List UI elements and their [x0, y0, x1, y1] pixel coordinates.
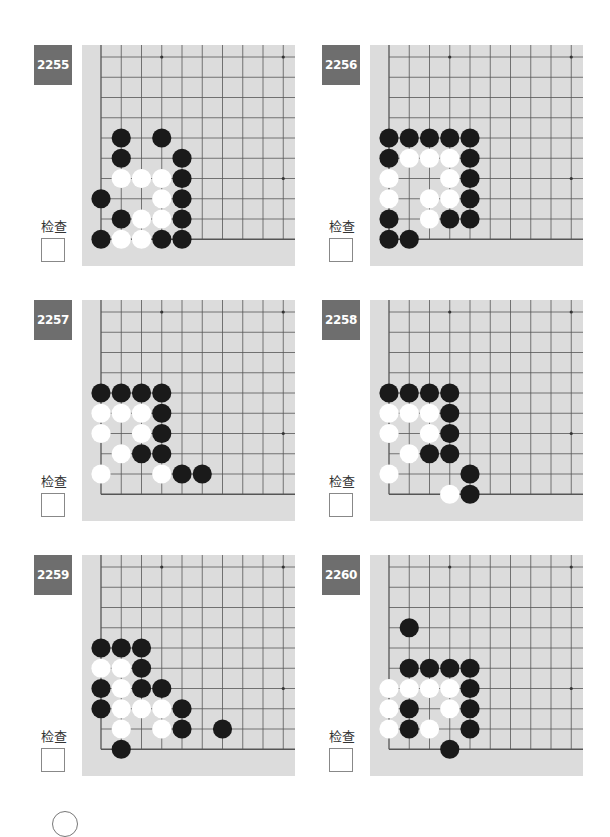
black-stone	[460, 659, 479, 678]
board-grid	[82, 555, 295, 776]
white-stone	[379, 404, 398, 423]
black-stone	[440, 128, 459, 147]
black-stone	[172, 149, 191, 168]
black-stone	[172, 189, 191, 208]
black-stone	[132, 444, 151, 463]
black-stone	[460, 464, 479, 483]
black-stone	[460, 699, 479, 718]
white-stone	[152, 699, 171, 718]
star-point	[570, 565, 573, 568]
white-stone	[379, 699, 398, 718]
white-stone	[91, 464, 110, 483]
board-grid	[370, 300, 583, 521]
black-stone	[152, 404, 171, 423]
check-label: 检查	[36, 216, 72, 235]
star-point	[448, 310, 451, 313]
black-stone	[132, 679, 151, 698]
black-stone	[400, 618, 419, 637]
problem-2260: 2260 检查	[322, 555, 610, 785]
star-point	[282, 177, 285, 180]
black-stone	[91, 638, 110, 657]
star-point	[282, 310, 285, 313]
white-stone	[440, 485, 459, 504]
problem-number-badge: 2258	[322, 300, 360, 340]
black-stone	[460, 679, 479, 698]
go-board	[82, 45, 295, 266]
white-stone	[112, 444, 131, 463]
black-stone	[91, 699, 110, 718]
go-board	[370, 555, 583, 776]
check-label: 检查	[36, 726, 72, 745]
black-stone	[400, 699, 419, 718]
white-stone	[420, 424, 439, 443]
white-stone	[91, 659, 110, 678]
problem-2258: 2258 检查	[322, 300, 610, 530]
check-box[interactable]	[329, 493, 353, 517]
black-stone	[440, 404, 459, 423]
black-stone	[420, 659, 439, 678]
star-point	[448, 55, 451, 58]
black-stone	[460, 169, 479, 188]
black-stone	[152, 679, 171, 698]
white-stone	[112, 659, 131, 678]
check-box[interactable]	[329, 238, 353, 262]
black-stone	[400, 719, 419, 738]
white-stone	[420, 679, 439, 698]
star-point	[282, 432, 285, 435]
white-stone	[420, 209, 439, 228]
black-stone	[132, 383, 151, 402]
check-box[interactable]	[41, 493, 65, 517]
black-stone	[460, 149, 479, 168]
white-stone	[400, 679, 419, 698]
black-stone	[440, 444, 459, 463]
star-point	[160, 310, 163, 313]
white-stone	[400, 404, 419, 423]
star-point	[160, 565, 163, 568]
black-stone	[91, 189, 110, 208]
black-stone	[213, 719, 232, 738]
black-stone	[400, 659, 419, 678]
black-stone	[172, 209, 191, 228]
black-stone	[172, 719, 191, 738]
black-stone	[460, 209, 479, 228]
check-box[interactable]	[329, 748, 353, 772]
check-box[interactable]	[41, 238, 65, 262]
go-board	[370, 45, 583, 266]
white-stone	[420, 149, 439, 168]
black-stone	[460, 719, 479, 738]
white-stone	[91, 424, 110, 443]
star-point	[570, 432, 573, 435]
star-point	[282, 565, 285, 568]
white-stone	[379, 169, 398, 188]
check-label: 检查	[324, 726, 360, 745]
problem-2255: 2255 检查	[34, 45, 324, 275]
black-stone	[152, 444, 171, 463]
problem-2259: 2259 检查	[34, 555, 324, 785]
go-board	[82, 555, 295, 776]
star-point	[448, 565, 451, 568]
black-stone	[379, 230, 398, 249]
white-stone	[440, 169, 459, 188]
white-stone	[420, 189, 439, 208]
white-stone	[420, 719, 439, 738]
star-point	[570, 310, 573, 313]
black-stone	[379, 149, 398, 168]
white-stone	[379, 189, 398, 208]
check-box[interactable]	[41, 748, 65, 772]
white-stone	[152, 464, 171, 483]
board-grid	[82, 45, 295, 266]
black-stone	[112, 383, 131, 402]
problem-number-badge: 2255	[34, 45, 72, 85]
black-stone	[112, 740, 131, 759]
white-stone	[112, 404, 131, 423]
black-stone	[112, 209, 131, 228]
page-number-circle	[52, 811, 78, 837]
board-grid	[82, 300, 295, 521]
black-stone	[400, 230, 419, 249]
black-stone	[172, 230, 191, 249]
black-stone	[172, 169, 191, 188]
star-point	[570, 687, 573, 690]
white-stone	[132, 424, 151, 443]
white-stone	[132, 230, 151, 249]
white-stone	[400, 444, 419, 463]
